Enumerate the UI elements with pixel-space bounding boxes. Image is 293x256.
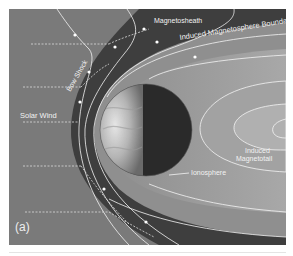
label-induced-magnetotail-line2: Magnetotail: [236, 155, 272, 163]
label-solar-wind: Solar Wind: [20, 112, 57, 120]
bottom-divider: [9, 252, 286, 253]
venus-magnetosphere-diagram: Magnetosheath Induced Magnetosphere Boun…: [9, 9, 286, 245]
diagram-artwork: [9, 9, 286, 245]
panel-label: (a): [15, 220, 30, 234]
label-induced-magnetotail-line1: Induced: [245, 147, 270, 155]
venus-planet: [100, 84, 192, 176]
label-ionosphere: Ionosphere: [191, 169, 226, 177]
label-magnetosheath: Magnetosheath: [154, 17, 202, 25]
